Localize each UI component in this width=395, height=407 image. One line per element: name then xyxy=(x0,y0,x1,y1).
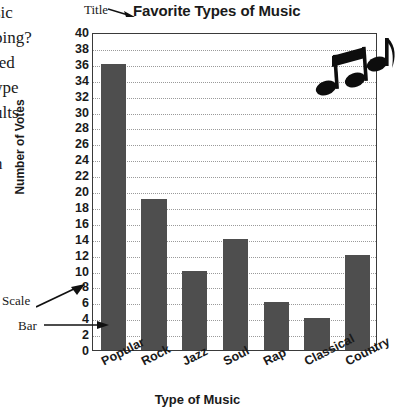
y-tick-label: 32 xyxy=(75,90,89,103)
y-axis-title: Number of Votes xyxy=(13,87,27,207)
y-tick-label: 30 xyxy=(75,106,89,119)
gridline xyxy=(93,161,376,162)
callout-label-title: Title xyxy=(84,2,108,18)
y-tick-label: 16 xyxy=(75,218,89,231)
beamed-eighth-notes-icon xyxy=(315,42,373,98)
chart-title: Favorite Types of Music xyxy=(133,2,300,19)
bleed-line-2: ping? xyxy=(0,25,44,50)
y-tick-label: 20 xyxy=(75,186,89,199)
y-tick-label: 22 xyxy=(75,170,89,183)
y-tick-label: 18 xyxy=(75,202,89,215)
y-tick-label: 38 xyxy=(75,43,89,56)
bleed-line-3: ted xyxy=(0,50,44,75)
x-axis-title: Type of Music xyxy=(0,392,395,407)
y-tick-label: 28 xyxy=(75,122,89,135)
gridline xyxy=(93,225,376,226)
y-tick-label: 10 xyxy=(75,265,89,278)
eighth-note-icon xyxy=(366,38,395,100)
callout-label-scale: Scale xyxy=(2,293,30,309)
gridline xyxy=(93,209,376,210)
bar xyxy=(182,271,207,351)
bar xyxy=(101,64,126,350)
callout-arrow-scale xyxy=(36,283,86,309)
callout-label-bar: Bar xyxy=(18,318,37,334)
callout-arrow-bar xyxy=(44,318,110,332)
bar xyxy=(264,302,289,350)
y-tick-label: 34 xyxy=(75,74,89,87)
callout-arrow-title xyxy=(108,6,136,20)
bar xyxy=(141,199,166,350)
gridline xyxy=(93,129,376,130)
gridline xyxy=(93,114,376,115)
y-tick-label: 26 xyxy=(75,138,89,151)
bar xyxy=(223,239,248,350)
gridline xyxy=(93,193,376,194)
bleed-line-1: sic xyxy=(0,0,44,25)
y-tick-label: 24 xyxy=(75,154,89,167)
gridline xyxy=(93,145,376,146)
gridline xyxy=(93,177,376,178)
y-tick-label: 0 xyxy=(82,345,89,358)
y-tick-label: 36 xyxy=(75,59,89,72)
y-tick-label: 12 xyxy=(75,249,89,262)
y-tick-label: 40 xyxy=(75,27,89,40)
y-tick-label: 14 xyxy=(75,233,89,246)
